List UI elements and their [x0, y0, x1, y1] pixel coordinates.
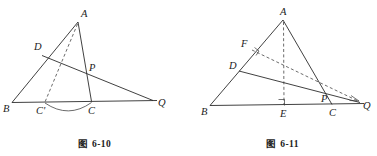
- dashed-altitude-A-E: [284, 22, 285, 105]
- segment-DQ: [239, 71, 360, 103]
- segment-BQ: [12, 101, 157, 103]
- figure-6-10: A B D P C' C Q 图 6-10: [0, 0, 189, 156]
- label-P: P: [320, 93, 328, 104]
- label-A: A: [279, 6, 287, 17]
- label-C: C: [88, 105, 96, 116]
- label-C-prime: C': [36, 105, 46, 116]
- label-B: B: [3, 103, 10, 114]
- label-A: A: [80, 8, 88, 19]
- label-D: D: [228, 60, 237, 71]
- caption-number: 6-11: [280, 139, 299, 149]
- segment-AB: [210, 20, 283, 106]
- segment-BQ: [210, 104, 364, 106]
- figure-6-10-drawing: A B D P C' C Q: [0, 0, 189, 128]
- figure-6-11-caption: 图 6-11: [188, 136, 377, 150]
- figure-6-10-caption: 图 6-10: [0, 136, 189, 150]
- segment-AC: [283, 20, 332, 105]
- label-P: P: [88, 62, 96, 73]
- label-D: D: [33, 41, 42, 52]
- segment-AB: [12, 22, 78, 103]
- label-F: F: [240, 38, 248, 49]
- caption-prefix: 图: [78, 138, 89, 149]
- arc-Cprime-C: [45, 103, 92, 111]
- label-Q: Q: [158, 97, 166, 108]
- caption-number: 6-10: [92, 139, 111, 149]
- figure-sheet: A B D P C' C Q 图 6-10: [0, 0, 377, 156]
- figure-6-11: A F D B E P C Q 图 6-11: [188, 0, 377, 156]
- label-B: B: [201, 106, 208, 117]
- figure-6-11-drawing: A F D B E P C Q: [188, 0, 377, 128]
- label-Q: Q: [363, 100, 371, 111]
- caption-prefix: 图: [266, 138, 277, 149]
- label-E: E: [279, 108, 287, 119]
- label-C: C: [329, 107, 337, 118]
- segment-DQ: [42, 56, 153, 101]
